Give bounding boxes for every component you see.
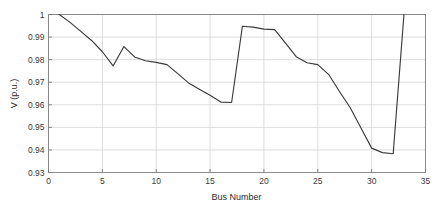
y-tick-label: 0.95 [28,122,45,132]
y-tick-label: 1 [40,10,45,20]
x-tick-label: 20 [259,176,269,186]
chart-figure: 05101520253035 0.930.940.950.960.970.980… [0,0,444,206]
y-tick-label: 0.94 [28,145,45,155]
y-axis-title: V (p.u.) [9,79,19,109]
y-tick-label: 0.93 [28,168,45,178]
x-tick-label: 0 [46,176,51,186]
y-tick-label: 0.98 [28,55,45,65]
x-tick-label: 30 [367,176,377,186]
x-tick-label: 15 [205,176,215,186]
x-tick-label: 10 [151,176,161,186]
x-tick-label: 35 [421,176,431,186]
y-tick-label: 0.97 [28,77,45,87]
y-tick-label: 0.96 [28,100,45,110]
line-chart: 05101520253035 0.930.940.950.960.970.980… [0,0,444,206]
y-tick-label: 0.99 [28,32,45,42]
figure-background [0,0,444,206]
x-tick-label: 5 [100,176,105,186]
x-tick-label: 25 [313,176,323,186]
x-axis-title: Bus Number [211,192,261,202]
